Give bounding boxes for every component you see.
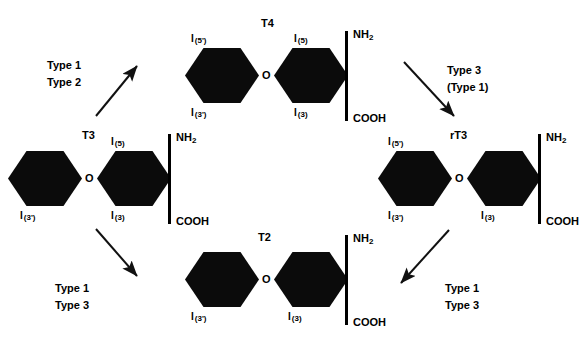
- label-iodine-3-rt3: I(3): [481, 211, 494, 221]
- ether-oxygen-t2: O: [262, 274, 271, 285]
- label-iodine-3-prime-t4: I(3'): [191, 108, 205, 118]
- pathway-label-t4-to-t3: Type 1 Type 2: [47, 57, 81, 91]
- arrow-type1-type2: [96, 66, 137, 116]
- ether-oxygen-t3: O: [85, 173, 94, 184]
- inner-ring-t2: [274, 252, 348, 307]
- label-amine-t3: NH2: [176, 132, 196, 143]
- outer-ring-rt3: [378, 151, 452, 206]
- label-iodine-5-prime-rt3: I(5'): [388, 137, 402, 147]
- pathway-label-t4-to-t3-line1: Type 1: [47, 57, 81, 74]
- side-chain-bar-t3: [168, 134, 171, 224]
- label-iodine-3-prime-t3: I(3'): [20, 211, 34, 221]
- pathway-label-t4-to-t3-line2: Type 2: [47, 74, 81, 91]
- label-iodine-3-t3: I(3): [111, 211, 124, 221]
- arrow-rt3-to-t2: [401, 230, 449, 283]
- ether-oxygen-rt3: O: [455, 173, 464, 184]
- molecule-title-t4: T4: [261, 18, 274, 29]
- pathway-label-rt3-to-t2-line2: Type 3: [445, 297, 479, 314]
- pathway-label-t4-to-rt3: Type 3 (Type 1): [447, 62, 488, 96]
- inner-ring-rt3: [467, 151, 541, 206]
- pathway-label-rt3-to-t2: Type 1 Type 3: [445, 280, 479, 314]
- label-iodine-3-prime-t2: I(3'): [191, 312, 205, 322]
- label-iodine-5-prime-t4: I(5'): [191, 34, 205, 44]
- inner-ring-t4: [274, 48, 348, 103]
- side-chain-bar-t2: [345, 235, 348, 325]
- label-carboxyl-t3: COOH: [176, 216, 209, 227]
- outer-ring-t4: [185, 48, 259, 103]
- label-iodine-5-t3: I(5): [111, 137, 124, 147]
- molecule-title-rt3: rT3: [450, 130, 467, 141]
- pathway-label-t3-to-t2-line2: Type 3: [55, 297, 89, 314]
- label-amine-t2: NH2: [353, 233, 373, 244]
- label-iodine-3-t2: I(3): [288, 312, 301, 322]
- label-amine-t4: NH2: [353, 29, 373, 40]
- label-carboxyl-t2: COOH: [353, 317, 386, 328]
- outer-ring-t3: [8, 151, 82, 206]
- arrow-t3-to-t2: [96, 229, 137, 276]
- molecule-title-t2: T2: [258, 232, 271, 243]
- label-iodine-3-prime-rt3: I(3'): [388, 211, 402, 221]
- side-chain-bar-rt3: [538, 134, 541, 224]
- label-amine-rt3: NH2: [546, 132, 566, 143]
- outer-ring-t2: [185, 252, 259, 307]
- pathway-label-t3-to-t2: Type 1 Type 3: [55, 280, 89, 314]
- label-iodine-3-t4: I(3): [294, 108, 307, 118]
- ether-oxygen-t4: O: [262, 70, 271, 81]
- pathway-label-rt3-to-t2-line1: Type 1: [445, 280, 479, 297]
- label-iodine-5-t4: I(5): [294, 34, 307, 44]
- label-carboxyl-t4: COOH: [353, 113, 386, 124]
- label-carboxyl-rt3: COOH: [546, 216, 579, 227]
- molecule-title-t3: T3: [82, 130, 95, 141]
- pathway-label-t4-to-rt3-line1: Type 3: [447, 62, 488, 79]
- pathway-label-t4-to-rt3-line2: (Type 1): [447, 79, 488, 96]
- side-chain-bar-t4: [345, 31, 348, 121]
- inner-ring-t3: [97, 151, 171, 206]
- pathway-label-t3-to-t2-line1: Type 1: [55, 280, 89, 297]
